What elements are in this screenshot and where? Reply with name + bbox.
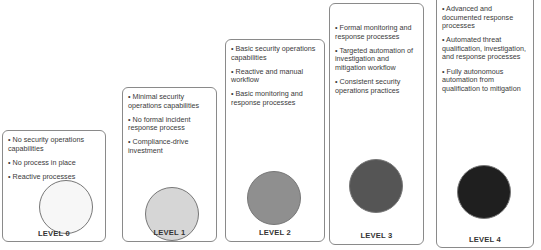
level-4-circle-icon	[457, 165, 511, 219]
bullet-item: • Targeted automation of investigation a…	[335, 47, 421, 73]
level-0-circle-icon	[39, 180, 93, 234]
bullet-item: • Compliance-drive investment	[128, 138, 214, 155]
level-4-label: LEVEL 4	[437, 235, 533, 244]
bullet-item: • Fully autonomous automation from quali…	[442, 68, 531, 94]
bullet-item: • Advanced and documented response proce…	[442, 5, 531, 31]
level-2-label: LEVEL 2	[226, 228, 324, 237]
bullet-item: • No formal incident response process	[128, 116, 214, 133]
bullet-item: • Reactive processes	[8, 173, 103, 182]
bullet-item: • No security operations capabilities	[8, 136, 103, 153]
level-4-card: • Advanced and documented response proce…	[436, 0, 534, 248]
level-3-card: • Formal monitoring and response process…	[329, 3, 424, 245]
bullet-item: • Formal monitoring and response process…	[335, 24, 421, 41]
bullet-item: • Automated threat qualification, invest…	[442, 36, 531, 62]
level-0-label: LEVEL 0	[3, 229, 105, 238]
level-3-circle-icon	[349, 159, 403, 213]
level-2-circle-icon	[247, 171, 301, 225]
level-1-label: LEVEL 1	[123, 228, 216, 237]
bullet-item: • Consistent security operations practic…	[335, 78, 421, 95]
level-0-card: • No security operations capabilities • …	[2, 130, 106, 242]
bullet-item: • No process in place	[8, 159, 103, 168]
bullet-item: • Basic security operations capabilities	[231, 45, 322, 62]
level-3-label: LEVEL 3	[330, 231, 423, 240]
level-1-bullets: • Minimal security operations capabiliti…	[128, 93, 214, 161]
bullet-item: • Reactive and manual workflow	[231, 68, 322, 85]
level-2-card: • Basic security operations capabilities…	[225, 39, 325, 242]
level-2-bullets: • Basic security operations capabilities…	[231, 45, 322, 113]
level-3-bullets: • Formal monitoring and response process…	[335, 24, 421, 101]
level-4-bullets: • Advanced and documented response proce…	[442, 5, 531, 99]
bullet-item: • Minimal security operations capabiliti…	[128, 93, 214, 110]
level-1-card: • Minimal security operations capabiliti…	[122, 87, 217, 242]
bullet-item: • Basic monitoring and response processe…	[231, 90, 322, 107]
level-0-bullets: • No security operations capabilities • …	[8, 136, 103, 187]
